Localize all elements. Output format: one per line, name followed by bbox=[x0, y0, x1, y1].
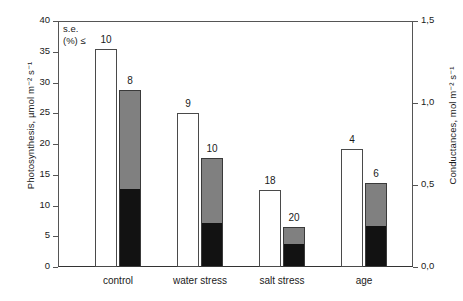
tick-label: 0,5 bbox=[421, 178, 434, 189]
bar-value-label: 8 bbox=[111, 75, 149, 86]
tick-mark bbox=[53, 52, 58, 53]
tick-mark bbox=[413, 185, 418, 186]
se-note-line2: (%) ≤ bbox=[63, 35, 86, 47]
tick-mark bbox=[53, 267, 58, 268]
tick-label: 40 bbox=[26, 14, 50, 25]
tick-label: 0 bbox=[26, 260, 50, 271]
y-axis-right-title: Conductances, mol m⁻² s⁻¹ bbox=[447, 36, 458, 216]
bar-open-age bbox=[341, 149, 363, 267]
tick-mark bbox=[53, 113, 58, 114]
tick-label: 30 bbox=[26, 76, 50, 87]
tick-mark bbox=[53, 83, 58, 84]
tick-label: 20 bbox=[26, 137, 50, 148]
bar-value-label: 4 bbox=[333, 134, 371, 145]
bar-stacked-salt-stress bbox=[283, 227, 305, 267]
tick-label: 5 bbox=[26, 229, 50, 240]
tick-mark bbox=[413, 103, 418, 104]
bar-value-label: 9 bbox=[169, 98, 207, 109]
tick-mark bbox=[413, 21, 418, 22]
bar-stacked-age bbox=[365, 183, 387, 267]
tick-label: 1,5 bbox=[421, 14, 434, 25]
bar-lower-segment bbox=[202, 223, 222, 266]
tick-mark bbox=[53, 21, 58, 22]
tick-label: 1,0 bbox=[421, 96, 434, 107]
tick-mark bbox=[53, 236, 58, 237]
tick-mark bbox=[53, 175, 58, 176]
bar-lower-segment bbox=[284, 244, 304, 266]
tick-label: 10 bbox=[26, 199, 50, 210]
se-note-line1: s.e. bbox=[63, 23, 86, 35]
tick-mark bbox=[413, 267, 418, 268]
bar-lower-segment bbox=[120, 189, 140, 266]
tick-mark bbox=[53, 144, 58, 145]
bar-open-water-stress bbox=[177, 113, 199, 267]
bar-open-salt-stress bbox=[259, 190, 281, 267]
bar-lower-segment bbox=[366, 226, 386, 266]
tick-label: 35 bbox=[26, 45, 50, 56]
tick-label: 15 bbox=[26, 168, 50, 179]
bar-value-label: 20 bbox=[275, 212, 313, 223]
standard-error-note: s.e. (%) ≤ bbox=[63, 23, 86, 46]
tick-label: 25 bbox=[26, 106, 50, 117]
chart-figure: s.e. (%) ≤ Photosynthesis, µmol m⁻² s⁻¹ … bbox=[0, 0, 463, 301]
bar-stacked-control bbox=[119, 90, 141, 267]
bar-stacked-water-stress bbox=[201, 158, 223, 267]
bar-value-label: 10 bbox=[193, 143, 231, 154]
tick-mark bbox=[53, 206, 58, 207]
y-axis-left-title: Photosynthesis, µmol m⁻² s⁻¹ bbox=[25, 36, 36, 216]
bar-value-label: 10 bbox=[87, 34, 125, 45]
bar-value-label: 6 bbox=[357, 168, 395, 179]
tick-label: 0,0 bbox=[421, 260, 434, 271]
x-axis-label-age: age bbox=[314, 275, 414, 286]
bar-value-label: 18 bbox=[251, 175, 289, 186]
